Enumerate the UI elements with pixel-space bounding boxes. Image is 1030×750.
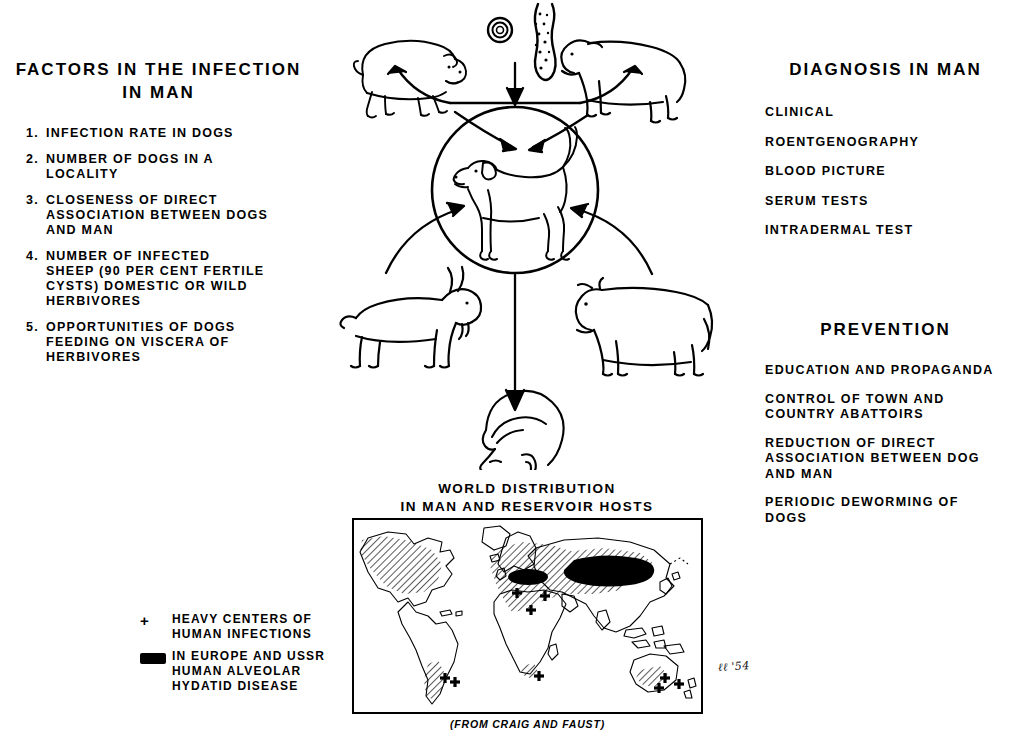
list-item: 4. NUMBER OF INFECTED SHEEP (90 PER CENT… [26, 249, 326, 309]
item-number: 2. [26, 152, 46, 182]
diagram-canvas: FACTORS IN THE INFECTION IN MAN 1. INFEC… [0, 0, 1030, 750]
factors-heading: FACTORS IN THE INFECTION IN MAN [6, 58, 311, 104]
list-item: 2. NUMBER OF DOGS IN A LOCALITY [26, 152, 326, 182]
diagnosis-panel: DIAGNOSIS IN MAN CLINICAL ROENTGENOGRAPH… [748, 58, 1030, 253]
map-title: WORLD DISTRIBUTION IN MAN AND RESERVOIR … [352, 480, 702, 516]
list-item: 3. CLOSENESS OF DIRECT ASSOCIATION BETWE… [26, 193, 326, 238]
item-text: NUMBER OF DOGS IN A LOCALITY [46, 152, 326, 182]
artist-signature: ℓℓ '54 [718, 659, 750, 674]
egg-icon [488, 18, 512, 42]
map-credit: (FROM CRAIG AND FAUST) [352, 718, 703, 730]
list-item: ROENTGENOGRAPHY [765, 135, 1030, 151]
diagnosis-list: CLINICAL ROENTGENOGRAPHY BLOOD PICTURE S… [765, 105, 1030, 239]
item-number: 5. [26, 320, 46, 365]
legend-label: HEAVY CENTERS OF HUMAN INFECTIONS [172, 612, 345, 642]
world-distribution-map [352, 518, 703, 714]
item-number: 4. [26, 249, 46, 309]
diagnosis-heading: DIAGNOSIS IN MAN [748, 58, 1023, 81]
list-item: 1. INFECTION RATE IN DOGS [26, 126, 326, 141]
list-item: PERIODIC DEWORMING OF DOGS [765, 495, 1030, 526]
item-text: OPPORTUNITIES OF DOGS FEEDING ON VISCERA… [46, 320, 326, 365]
legend-row: IN EUROPE AND USSR HUMAN ALVEOLAR HYDATI… [140, 649, 345, 694]
list-item: CLINICAL [765, 105, 1030, 121]
item-text: NUMBER OF INFECTED SHEEP (90 PER CENT FE… [46, 249, 326, 309]
tapeworm-larva-icon [534, 4, 556, 80]
goat-icon [340, 267, 481, 368]
prevention-heading: PREVENTION [748, 318, 1023, 341]
life-cycle-diagram [300, 0, 730, 470]
legend-label: IN EUROPE AND USSR HUMAN ALVEOLAR HYDATI… [172, 649, 345, 694]
map-legend: + HEAVY CENTERS OF HUMAN INFECTIONS IN E… [140, 612, 345, 701]
list-item: BLOOD PICTURE [765, 164, 1030, 180]
list-item: REDUCTION OF DIRECT ASSOCIATION BETWEEN … [765, 436, 1030, 483]
item-text: CLOSENESS OF DIRECT ASSOCIATION BETWEEN … [46, 193, 326, 238]
legend-row: + HEAVY CENTERS OF HUMAN INFECTIONS [140, 612, 345, 642]
list-item: CONTROL OF TOWN AND COUNTRY ABATTOIRS [765, 392, 1030, 423]
arrow-to-sheep [580, 68, 633, 103]
prevention-panel: PREVENTION EDUCATION AND PROPAGANDA CONT… [748, 318, 1030, 539]
factors-panel: FACTORS IN THE INFECTION IN MAN 1. INFEC… [6, 58, 326, 376]
cow-icon [576, 278, 712, 376]
factors-list: 1. INFECTION RATE IN DOGS 2. NUMBER OF D… [26, 126, 326, 365]
list-item: SERUM TESTS [765, 194, 1030, 210]
prevention-list: EDUCATION AND PROPAGANDA CONTROL OF TOWN… [765, 363, 1030, 526]
item-number: 3. [26, 193, 46, 238]
pig-icon [354, 41, 466, 118]
host-circle [432, 107, 598, 273]
list-item: EDUCATION AND PROPAGANDA [765, 363, 1030, 379]
black-swatch-icon [140, 649, 172, 694]
item-text: INFECTION RATE IN DOGS [46, 126, 326, 141]
plus-marker-icon: + [140, 612, 172, 642]
list-item: 5. OPPORTUNITIES OF DOGS FEEDING ON VISC… [26, 320, 326, 365]
man-head-icon [480, 391, 563, 470]
item-number: 1. [26, 126, 46, 141]
list-item: INTRADERMAL TEST [765, 223, 1030, 239]
